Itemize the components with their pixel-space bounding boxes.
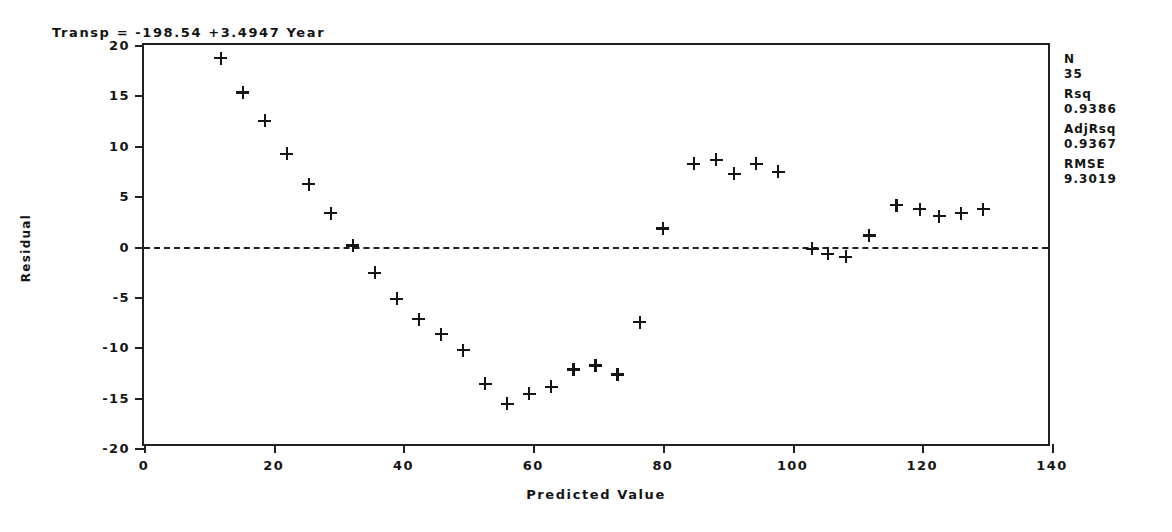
data-point-marker — [710, 153, 723, 166]
data-point-marker — [890, 199, 903, 212]
data-point-marker — [589, 359, 602, 372]
y-axis-tick — [135, 196, 144, 198]
y-axis-tick — [135, 448, 144, 450]
data-point-marker — [567, 363, 580, 376]
stat-value: 35 — [1064, 67, 1164, 82]
y-axis-tick-label: 10 — [109, 138, 130, 153]
y-axis-tick-label: -10 — [102, 340, 130, 355]
data-point-marker — [772, 165, 785, 178]
x-axis-tick-label: 140 — [1036, 458, 1067, 473]
x-axis-tick — [793, 444, 795, 453]
x-axis-tick-label: 120 — [907, 458, 938, 473]
data-point-marker — [258, 114, 271, 127]
stat-label: Rsq — [1064, 87, 1164, 102]
data-point-marker — [633, 316, 646, 329]
data-point-marker — [390, 292, 403, 305]
data-point-marker — [479, 377, 492, 390]
x-axis-tick — [922, 444, 924, 453]
x-axis-tick — [1052, 444, 1054, 453]
plot-area: 20151050-5-10-15-20020406080100120140 — [142, 43, 1050, 446]
y-axis-tick-label: 0 — [120, 239, 130, 254]
x-axis-tick-label: 20 — [263, 458, 284, 473]
y-axis-title: Residual — [19, 214, 33, 282]
zero-reference-line — [144, 247, 1048, 249]
x-axis-tick — [274, 444, 276, 453]
statistics-panel: N35Rsq0.9386AdjRsq0.9367RMSE9.3019 — [1064, 52, 1164, 192]
data-point-marker — [457, 344, 470, 357]
data-point-marker — [435, 328, 448, 341]
y-axis-tick-label: 15 — [109, 88, 130, 103]
y-axis-tick — [135, 247, 144, 249]
y-axis-tick-label: -15 — [102, 390, 130, 405]
stat-value: 0.9386 — [1064, 102, 1164, 117]
x-axis-tick — [403, 444, 405, 453]
y-axis-tick-label: -5 — [113, 289, 130, 304]
y-axis-tick — [135, 347, 144, 349]
data-point-marker — [611, 368, 624, 381]
y-axis-tick-label: 5 — [120, 189, 130, 204]
y-axis-tick — [135, 95, 144, 97]
data-point-marker — [280, 147, 293, 160]
data-point-marker — [821, 247, 834, 260]
x-axis-title: Predicted Value — [526, 487, 666, 502]
data-point-marker — [913, 203, 926, 216]
y-axis-tick-label: 20 — [109, 38, 130, 53]
data-point-marker — [523, 387, 536, 400]
stat-value: 0.9367 — [1064, 137, 1164, 152]
chart-title: Transp = -198.54 +3.4947 Year — [52, 25, 325, 40]
stat-value: 9.3019 — [1064, 172, 1164, 187]
data-point-marker — [955, 207, 968, 220]
x-axis-tick — [663, 444, 665, 453]
data-point-marker — [545, 380, 558, 393]
data-point-marker — [977, 203, 990, 216]
data-point-marker — [346, 239, 359, 252]
x-axis-tick — [144, 444, 146, 453]
data-point-marker — [750, 157, 763, 170]
x-axis-tick-label: 100 — [777, 458, 808, 473]
x-axis-tick-label: 0 — [139, 458, 149, 473]
data-point-marker — [656, 222, 669, 235]
data-point-marker — [728, 167, 741, 180]
y-axis-tick — [135, 146, 144, 148]
data-point-marker — [933, 210, 946, 223]
data-point-marker — [412, 313, 425, 326]
data-point-marker — [236, 86, 249, 99]
data-point-marker — [324, 207, 337, 220]
data-point-marker — [302, 178, 315, 191]
stat-label: N — [1064, 52, 1164, 67]
data-point-marker — [687, 157, 700, 170]
data-point-marker — [368, 266, 381, 279]
y-axis-tick — [135, 398, 144, 400]
data-point-marker — [863, 229, 876, 242]
stat-label: AdjRsq — [1064, 122, 1164, 137]
plot-surface: 20151050-5-10-15-20020406080100120140 — [144, 45, 1048, 444]
y-axis-tick — [135, 297, 144, 299]
data-point-marker — [501, 397, 514, 410]
data-point-marker — [214, 52, 227, 65]
data-point-marker — [839, 250, 852, 263]
x-axis-tick-label: 40 — [393, 458, 414, 473]
data-point-marker — [806, 242, 819, 255]
stat-label: RMSE — [1064, 157, 1164, 172]
y-axis-tick-label: -20 — [102, 441, 130, 456]
x-axis-tick-label: 80 — [652, 458, 673, 473]
chart-screenshot: Transp = -198.54 +3.4947 Year Residual P… — [0, 0, 1172, 532]
y-axis-tick — [135, 45, 144, 47]
x-axis-tick — [533, 444, 535, 453]
x-axis-tick-label: 60 — [523, 458, 544, 473]
